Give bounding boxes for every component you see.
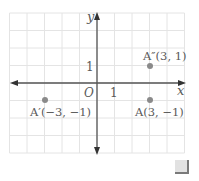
coordinate-plane: y x O 1 1 A″(3, 1) A(3, −1) A′(−3, −1) (0, 0, 199, 181)
point-a-double-prime (147, 63, 153, 69)
x-axis-left-arrow-icon (10, 80, 18, 86)
point-a-prime-label: A′(−3, −1) (29, 105, 91, 119)
point-a-prime (42, 97, 48, 103)
point-a (147, 97, 153, 103)
y-axis-label: y (86, 9, 95, 24)
y-axis-down-arrow-icon (94, 147, 100, 155)
point-a-double-prime-label: A″(3, 1) (142, 49, 187, 63)
y-tick-label: 1 (86, 60, 94, 74)
x-axis (10, 80, 186, 86)
x-axis-label: x (177, 83, 185, 98)
point-a-label: A(3, −1) (134, 105, 184, 119)
origin-label: O (84, 86, 94, 100)
resize-handle-icon[interactable] (175, 160, 189, 174)
x-tick-label: 1 (110, 86, 118, 100)
